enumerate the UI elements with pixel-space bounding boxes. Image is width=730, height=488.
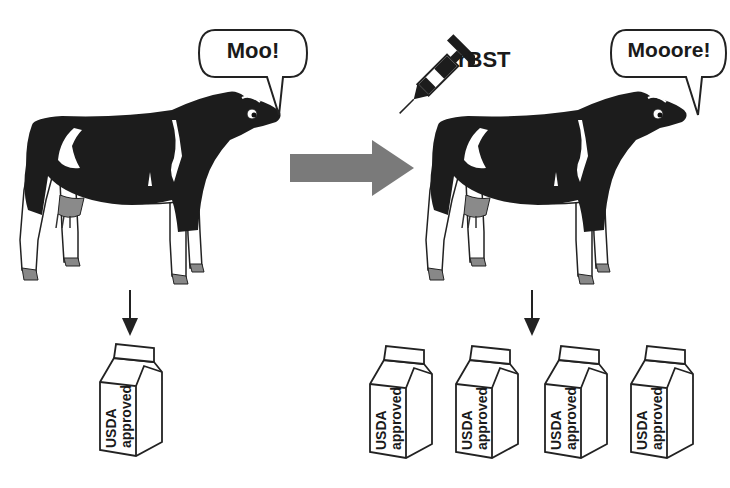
- rbst-label: rBST: [458, 47, 511, 73]
- carton-label-line1: USDA: [549, 387, 564, 450]
- carton-label-line2: approved: [564, 387, 579, 450]
- carton-label-line1: USDA: [374, 387, 389, 450]
- transition-arrow: [288, 140, 418, 196]
- milk-carton: USDA approved: [452, 340, 522, 464]
- milk-carton: USDA approved: [541, 340, 611, 464]
- carton-label-line2: approved: [475, 387, 490, 450]
- speech-text-moo: Moo!: [203, 38, 303, 64]
- carton-label-line1: USDA: [104, 385, 119, 448]
- milk-carton: USDA approved: [366, 340, 436, 464]
- down-arrow-right: [522, 290, 542, 338]
- milk-carton: USDA approved: [96, 338, 166, 462]
- speech-text-mooore: Mooore!: [610, 38, 728, 62]
- syringe-icon: [395, 28, 475, 128]
- carton-label-line2: approved: [119, 385, 134, 448]
- carton-label-line2: approved: [389, 387, 404, 450]
- carton-label-line1: USDA: [460, 387, 475, 450]
- milk-carton: USDA approved: [627, 340, 697, 464]
- carton-label-line2: approved: [650, 387, 665, 450]
- carton-label-line1: USDA: [635, 387, 650, 450]
- down-arrow-left: [120, 290, 140, 338]
